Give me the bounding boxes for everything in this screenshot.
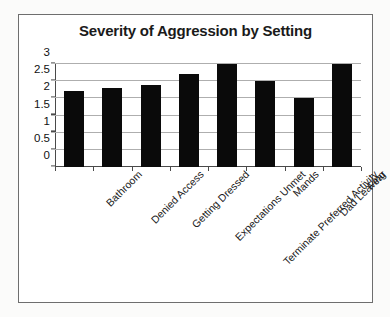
bar-slot: [246, 64, 284, 167]
y-tick-label: 3: [44, 46, 50, 58]
x-axis-label: Bathroom: [104, 168, 145, 209]
bar: [332, 64, 352, 167]
bar-slot: [323, 64, 361, 167]
chart-frame: Severity of Aggression by Setting 00.511…: [18, 14, 373, 303]
y-tick-label: 1.5: [34, 98, 50, 110]
bar: [102, 88, 122, 167]
bar-slot: [208, 64, 246, 167]
y-tick-label: 1: [44, 115, 50, 127]
y-tick-label: 2.5: [34, 63, 50, 75]
y-tick-label: 2: [44, 80, 50, 92]
y-tick-label: 0.5: [34, 132, 50, 144]
x-tick-mark: [361, 167, 362, 171]
bar: [141, 85, 161, 167]
bar-slot: [132, 64, 170, 167]
bar: [64, 91, 84, 167]
bar-slot: [285, 64, 323, 167]
plot-area: 00.511.522.53: [55, 64, 361, 167]
bar-series: [55, 64, 361, 167]
bar: [217, 64, 237, 167]
y-tick-label: 0: [44, 149, 50, 161]
bar-slot: [93, 64, 131, 167]
bar: [179, 74, 199, 167]
x-axis-labels: BathroomDenied AccessGetting DressedExpe…: [55, 168, 361, 298]
chart-title: Severity of Aggression by Setting: [19, 22, 372, 39]
bar: [255, 81, 275, 167]
bar: [294, 98, 314, 167]
bar-slot: [170, 64, 208, 167]
bar-slot: [55, 64, 93, 167]
